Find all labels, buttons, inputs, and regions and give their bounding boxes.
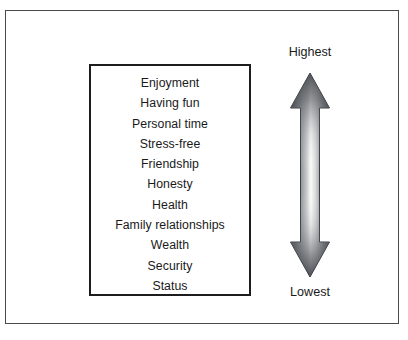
scale-label-lowest: Lowest bbox=[258, 285, 362, 299]
list-item: Health bbox=[91, 195, 249, 215]
list-item: Enjoyment bbox=[91, 73, 249, 93]
list-item: Security bbox=[91, 256, 249, 276]
double-headed-vertical-arrow-icon bbox=[258, 71, 362, 279]
list-item: Family relationships bbox=[91, 215, 249, 235]
outer-frame: Enjoyment Having fun Personal time Stres… bbox=[5, 10, 399, 324]
list-item: Having fun bbox=[91, 93, 249, 113]
values-ranking-box: Enjoyment Having fun Personal time Stres… bbox=[89, 64, 251, 296]
list-item: Honesty bbox=[91, 174, 249, 194]
list-item: Personal time bbox=[91, 114, 249, 134]
values-list: Enjoyment Having fun Personal time Stres… bbox=[91, 73, 249, 296]
scale-label-highest: Highest bbox=[258, 45, 362, 59]
ranking-scale: Highest bbox=[258, 45, 362, 303]
list-item: Status bbox=[91, 276, 249, 296]
list-item: Friendship bbox=[91, 154, 249, 174]
arrow-shading-overlay bbox=[291, 73, 330, 277]
list-item: Stress-free bbox=[91, 134, 249, 154]
list-item: Wealth bbox=[91, 235, 249, 255]
